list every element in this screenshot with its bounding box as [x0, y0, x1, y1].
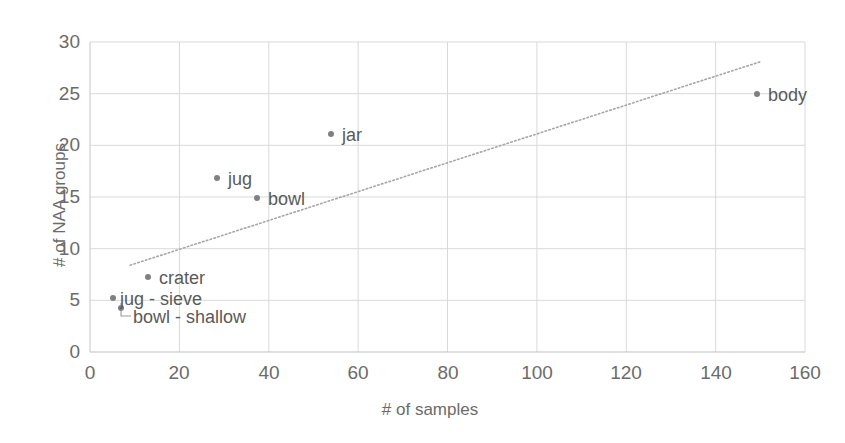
x-tick-40: 40 — [239, 362, 299, 384]
y-tick-30: 30 — [20, 31, 80, 53]
x-tick-20: 20 — [149, 362, 209, 384]
data-label-bowl: bowl — [268, 189, 305, 210]
x-tick-60: 60 — [328, 362, 388, 384]
x-tick-160: 160 — [775, 362, 835, 384]
data-point-jug[interactable] — [214, 175, 220, 181]
x-tick-120: 120 — [596, 362, 656, 384]
x-tick-140: 140 — [686, 362, 746, 384]
x-axis-title: # of samples — [330, 400, 530, 420]
data-point-jar[interactable] — [328, 131, 334, 137]
data-label-jar: jar — [342, 125, 362, 146]
y-axis-title: # of NAA groups — [50, 105, 70, 305]
data-label-bowl-shallow: bowl - shallow — [133, 307, 246, 328]
data-point-crater[interactable] — [145, 274, 151, 280]
data-label-jug: jug — [228, 169, 252, 190]
trendline — [130, 62, 760, 266]
data-point-bowl[interactable] — [254, 195, 260, 201]
x-tick-80: 80 — [418, 362, 478, 384]
data-label-crater: crater — [159, 268, 205, 289]
data-point-jug-sieve[interactable] — [110, 295, 116, 301]
x-tick-0: 0 — [60, 362, 120, 384]
scatter-chart: 30 25 20 15 10 5 0 0 20 40 60 80 100 120… — [0, 0, 845, 443]
data-label-body: body — [768, 85, 807, 106]
y-tick-25: 25 — [20, 83, 80, 105]
y-tick-0: 0 — [20, 341, 80, 363]
x-tick-100: 100 — [507, 362, 567, 384]
data-point-body[interactable] — [754, 91, 760, 97]
